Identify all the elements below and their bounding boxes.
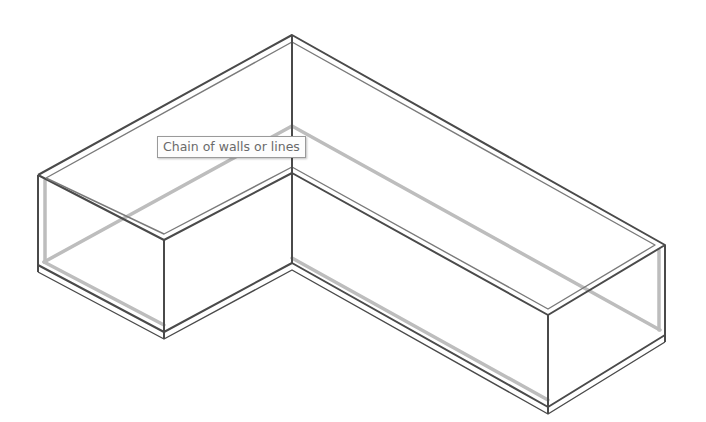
- tooltip: Chain of walls or lines: [157, 136, 306, 158]
- wireframe-model[interactable]: [0, 0, 706, 422]
- canvas[interactable]: Chain of walls or lines: [0, 0, 706, 422]
- hidden-edges: [44, 126, 660, 400]
- visible-edges: [38, 35, 665, 414]
